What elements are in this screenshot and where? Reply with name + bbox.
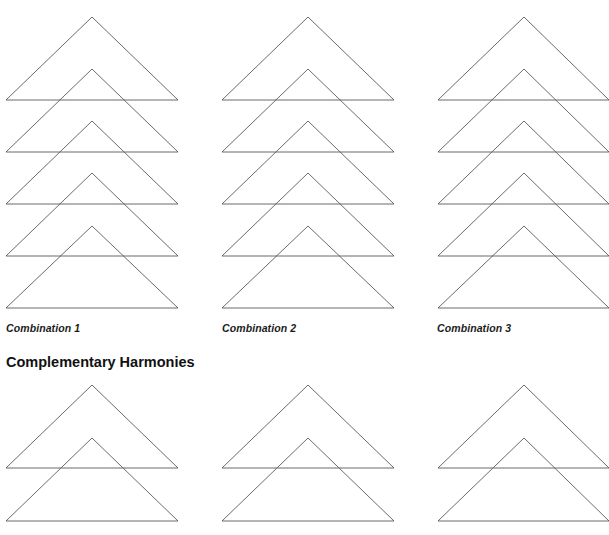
caption-combination-2: Combination 2 xyxy=(222,322,296,334)
triangle-outline-combinations-col3-2 xyxy=(438,69,609,152)
caption-combination-3: Combination 3 xyxy=(437,322,511,334)
triangle-outline-combinations-col1-5 xyxy=(6,226,178,308)
triangle-outline-complementary-col3-2 xyxy=(438,438,609,521)
triangle-outline-complementary-col2-1 xyxy=(222,385,394,468)
triangle-outline-combinations-col3-3 xyxy=(438,121,609,204)
triangle-outline-complementary-col1-2 xyxy=(6,438,178,521)
triangle-outline-combinations-col1-1 xyxy=(6,17,178,100)
triangle-outline-combinations-col3-1 xyxy=(438,17,609,100)
triangle-outline-combinations-col1-3 xyxy=(6,121,178,204)
triangle-outline-complementary-col3-1 xyxy=(438,385,609,468)
triangle-outline-complementary-col1-1 xyxy=(6,385,178,468)
triangle-outline-combinations-col2-5 xyxy=(222,226,394,308)
triangle-outline-combinations-col2-1 xyxy=(222,17,394,100)
triangle-diagram xyxy=(0,0,609,535)
triangle-outline-combinations-col1-4 xyxy=(6,173,178,256)
triangle-outline-combinations-col2-4 xyxy=(222,173,394,256)
triangle-outline-combinations-col3-4 xyxy=(438,173,609,256)
triangle-outline-combinations-col3-5 xyxy=(438,226,609,308)
triangle-outline-combinations-col2-3 xyxy=(222,121,394,204)
triangle-outline-combinations-col2-2 xyxy=(222,69,394,152)
triangle-outline-combinations-col1-2 xyxy=(6,69,178,152)
caption-combination-1: Combination 1 xyxy=(6,322,80,334)
section-heading-complementary-harmonies: Complementary Harmonies xyxy=(6,354,195,370)
triangle-outline-complementary-col2-2 xyxy=(222,438,394,521)
